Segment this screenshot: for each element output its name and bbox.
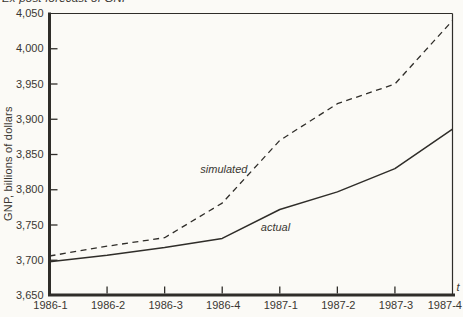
x-tick-label: 1987-1 xyxy=(264,299,298,311)
y-tick-label: 3,750 xyxy=(16,219,44,231)
x-tick-label: 1986-4 xyxy=(206,299,240,311)
x-tick-label: 1987-2 xyxy=(321,299,355,311)
time-axis-label: t xyxy=(457,281,461,293)
x-tick-label: 1986-2 xyxy=(91,299,125,311)
x-tick-label: 1987-3 xyxy=(379,299,413,311)
actual-line xyxy=(50,129,453,262)
simulated-label: simulated xyxy=(200,163,248,175)
y-tick-label: 4,050 xyxy=(16,7,44,19)
y-tick-label: 3,850 xyxy=(16,148,44,160)
y-tick-label: 3,950 xyxy=(16,78,44,90)
y-tick-label: 3,700 xyxy=(16,254,44,266)
gnp-forecast-chart: 3,6503,7003,7503,8003,8503,9003,9504,000… xyxy=(0,0,463,317)
y-tick-label: 3,900 xyxy=(16,113,44,125)
y-tick-label: 4,000 xyxy=(16,42,44,54)
actual-label: actual xyxy=(261,221,291,233)
y-tick-label: 3,800 xyxy=(16,183,44,195)
x-tick-label: 1986-3 xyxy=(149,299,183,311)
x-tick-label: 1987-4 xyxy=(428,299,462,311)
x-tick-label: 1986-1 xyxy=(33,299,67,311)
simulated-line xyxy=(50,21,453,256)
